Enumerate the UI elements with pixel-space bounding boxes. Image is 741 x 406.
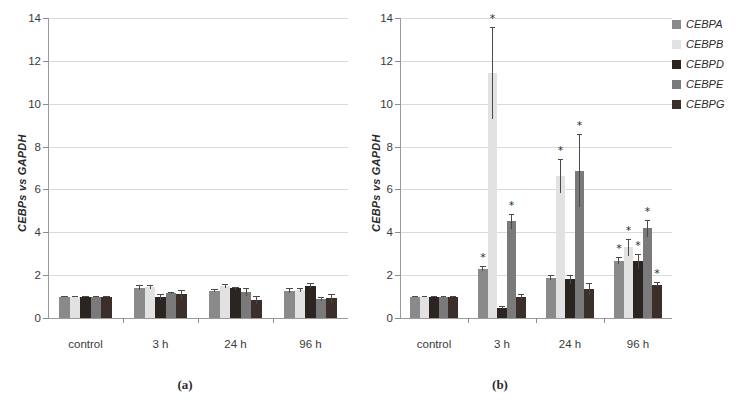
legend-label: CEBPG	[686, 98, 725, 110]
error-bar-cap	[577, 134, 583, 135]
gridline	[48, 104, 348, 105]
legend-swatch-cebpd	[672, 60, 681, 69]
bar-cebpb-96h	[624, 247, 634, 318]
bar-cebpe-control	[91, 297, 102, 318]
error-bar-cap	[328, 294, 334, 295]
error-bar	[638, 254, 639, 269]
error-bar-cap	[490, 27, 496, 28]
significance-asterisk: *	[506, 200, 518, 211]
error-bar-cap	[211, 289, 217, 290]
error-bar-cap	[286, 288, 292, 289]
x-axis-label-3h: 3 h	[468, 338, 536, 350]
panel-a: CEBPs vs GAPDH 02468101214 control3 h24 …	[0, 0, 370, 406]
bar-cebpb-24h	[556, 176, 566, 318]
legend-swatch-cebpe	[672, 80, 681, 89]
error-bar-cap	[222, 284, 228, 285]
y-tick-label: 6	[371, 183, 393, 195]
y-tick-label: 10	[371, 98, 393, 110]
legend-item-cebpb: CEBPB	[672, 34, 741, 54]
gridline	[48, 232, 348, 233]
legend-item-cebpd: CEBPD	[672, 54, 741, 74]
error-bar-cap	[499, 306, 505, 307]
y-tick-label: 0	[19, 312, 41, 324]
bar-cebpd-3h	[497, 308, 507, 318]
bar-cebpe-control	[439, 297, 449, 318]
error-bar	[618, 257, 619, 265]
gridline	[48, 275, 348, 276]
bar-cebpb-96h	[295, 290, 306, 318]
error-bar-cap	[422, 296, 428, 297]
significance-asterisk: *	[622, 225, 634, 236]
gridline	[48, 61, 348, 62]
y-tick-label: 12	[371, 55, 393, 67]
y-tick-label: 8	[371, 141, 393, 153]
error-bar-cap	[318, 297, 324, 298]
bar-cebpa-3h	[134, 288, 145, 318]
bar-cebpa-24h	[209, 291, 220, 318]
legend-label: CEBPE	[686, 78, 723, 90]
x-tick-mark	[604, 318, 605, 323]
error-bar-cap	[412, 296, 418, 297]
y-tick-label: 2	[371, 269, 393, 281]
bar-cebpa-control	[59, 297, 70, 318]
error-bar-cap	[253, 296, 259, 297]
bar-cebpa-96h	[284, 291, 295, 318]
x-axis-label-control: control	[48, 338, 123, 350]
y-tick-label: 6	[19, 183, 41, 195]
error-bar-cap	[93, 296, 99, 297]
y-tick-label: 12	[19, 55, 41, 67]
panel-b-caption: (b)	[370, 377, 630, 393]
bar-cebpb-3h	[145, 287, 156, 318]
bar-cebpa-96h	[614, 261, 624, 318]
gridline	[400, 189, 672, 190]
legend-label: CEBPB	[686, 38, 723, 50]
bar-cebpg-control	[448, 297, 458, 318]
error-bar-cap	[586, 283, 592, 284]
x-axis-label-24h: 24 h	[536, 338, 604, 350]
x-axis-label-control: control	[400, 338, 468, 350]
y-axis-line	[48, 18, 49, 318]
error-bar	[246, 288, 247, 297]
error-bar-cap	[157, 294, 163, 295]
error-bar-cap	[616, 257, 622, 258]
y-tick-label: 4	[19, 226, 41, 238]
error-bar-cap	[61, 296, 67, 297]
x-tick-mark	[468, 318, 469, 323]
bar-cebpb-control	[70, 297, 81, 318]
plot-area-a	[48, 18, 348, 318]
bar-cebpe-3h	[166, 293, 177, 318]
figure-root: CEBPs vs GAPDH 02468101214 control3 h24 …	[0, 0, 741, 406]
x-axis-label-3h: 3 h	[123, 338, 198, 350]
y-tick-label: 4	[371, 226, 393, 238]
y-tick-label: 10	[19, 98, 41, 110]
legend-swatch-cebpb	[672, 40, 681, 49]
bar-cebpg-control	[101, 297, 112, 318]
bar-cebpa-3h	[478, 269, 488, 318]
error-bar	[511, 214, 512, 229]
legend-swatch-cebpg	[672, 100, 681, 109]
x-axis-label-24h: 24 h	[198, 338, 273, 350]
error-bar	[589, 283, 590, 295]
error-bar	[560, 159, 561, 193]
error-bar-cap	[72, 296, 78, 297]
y-tick-label: 14	[19, 12, 41, 24]
legend-label: CEBPA	[686, 18, 722, 30]
x-axis-label-96h: 96 h	[604, 338, 672, 350]
panel-a-caption: (a)	[0, 377, 370, 393]
y-tick-label: 14	[371, 12, 393, 24]
error-bar-cap	[548, 275, 554, 276]
bar-cebpd-3h	[155, 297, 166, 318]
y-tick-mark	[43, 318, 48, 319]
legend-item-cebpe: CEBPE	[672, 74, 741, 94]
gridline	[48, 147, 348, 148]
gridline	[400, 18, 672, 19]
error-bar-cap	[567, 275, 573, 276]
x-tick-mark	[536, 318, 537, 323]
legend-swatch-cebpa	[672, 20, 681, 29]
bar-cebpa-control	[410, 297, 420, 318]
legend-item-cebpg: CEBPG	[672, 94, 741, 114]
x-axis-label-96h: 96 h	[273, 338, 348, 350]
significance-asterisk: *	[642, 206, 654, 217]
x-tick-mark	[273, 318, 274, 323]
error-bar-cap	[232, 287, 238, 288]
